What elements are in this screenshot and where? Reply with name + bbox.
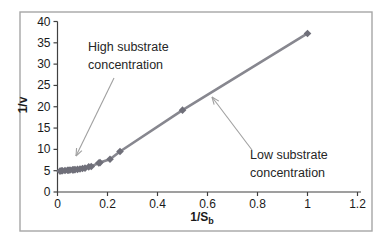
- y-axis-tick-label: 20: [37, 100, 51, 114]
- x-axis-tick-label: 0: [54, 197, 61, 211]
- x-axis-tick-label: 1.2: [349, 197, 366, 211]
- lineweaver-burk-chart: 051015202530354000.20.40.60.811.21/v1/Sb: [0, 0, 392, 242]
- x-axis-tick-label: 0.6: [199, 197, 216, 211]
- annotation-line: concentration: [88, 56, 169, 74]
- y-axis-tick-label: 35: [37, 36, 51, 50]
- x-axis-tick-label: 0.8: [249, 197, 266, 211]
- annotation-line: Low substrate: [250, 146, 328, 164]
- chart-frame: [20, 12, 372, 231]
- y-axis-title: 1/v: [16, 96, 30, 113]
- y-axis-tick-label: 5: [44, 164, 51, 178]
- annotation-line: concentration: [250, 164, 328, 182]
- annotation-high-substrate: High substrate concentration: [88, 38, 169, 74]
- x-axis-tick-label: 0.2: [99, 197, 116, 211]
- y-axis-tick-label: 15: [37, 121, 51, 135]
- y-axis-tick-label: 0: [44, 185, 51, 199]
- x-axis-tick-label: 1: [304, 197, 311, 211]
- y-axis-tick-label: 25: [37, 78, 51, 92]
- y-axis-tick-label: 40: [37, 15, 51, 29]
- x-axis-tick-label: 0.4: [149, 197, 166, 211]
- annotation-line: High substrate: [88, 38, 169, 56]
- annotation-arrowhead: [76, 148, 77, 156]
- y-axis-tick-label: 10: [37, 142, 51, 156]
- y-axis-tick-label: 30: [37, 57, 51, 71]
- annotation-low-substrate: Low substrate concentration: [250, 146, 328, 182]
